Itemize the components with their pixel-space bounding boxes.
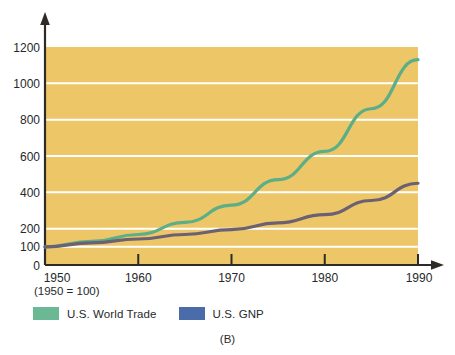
axis-note: (1950 = 100): [34, 285, 100, 297]
y-tick-label: 1000: [13, 77, 40, 91]
legend-item-world-trade[interactable]: U.S. World Trade: [33, 307, 157, 320]
line-chart: 010020040060080010001200 195019601970198…: [0, 0, 455, 355]
x-tick-label: 1990: [406, 271, 433, 285]
x-tick-label: 1960: [125, 271, 152, 285]
y-tick-label: 100: [20, 240, 40, 254]
y-tick-label: 1200: [13, 41, 40, 55]
legend-label-gnp: U.S. GNP: [213, 308, 264, 320]
legend-swatch-world-trade: [33, 307, 59, 320]
y-tick-label: 800: [20, 113, 40, 127]
chart-figure: 010020040060080010001200 195019601970198…: [0, 0, 455, 355]
chart-legend: U.S. World Trade U.S. GNP: [33, 307, 264, 320]
y-tick-label: 600: [20, 150, 40, 164]
arrow-right-icon: [431, 260, 444, 270]
legend-label-world-trade: U.S. World Trade: [67, 308, 157, 320]
legend-swatch-gnp: [179, 307, 205, 320]
panel-caption: (B): [0, 333, 455, 345]
arrow-up-icon: [40, 12, 50, 25]
x-tick-label: 1980: [311, 271, 338, 285]
y-tick-label: 200: [20, 222, 40, 236]
y-tick-label: 0: [33, 259, 40, 273]
y-tick-labels: 010020040060080010001200: [13, 41, 40, 273]
x-tick-labels: 19501960197019801990: [44, 271, 433, 285]
x-tick-label: 1970: [218, 271, 245, 285]
y-tick-label: 400: [20, 186, 40, 200]
x-tick-label: 1950: [44, 271, 71, 285]
legend-item-gnp[interactable]: U.S. GNP: [179, 307, 264, 320]
